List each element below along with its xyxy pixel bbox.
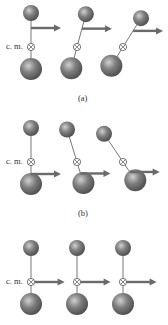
cm-label-b: c. m. — [6, 156, 23, 166]
large-sphere-c-2 — [66, 293, 88, 315]
force-arrowhead-b-2 — [104, 170, 111, 177]
small-sphere-a-1 — [23, 5, 39, 21]
small-sphere-a-2 — [78, 6, 94, 22]
figure-canvas: c. m. c. m. c. m. (a) (b) — [0, 0, 168, 325]
small-sphere-c-2 — [69, 240, 85, 256]
small-sphere-c-3 — [115, 240, 131, 256]
force-arrowhead-a-3 — [156, 27, 163, 34]
large-sphere-a-3 — [100, 55, 122, 77]
large-sphere-b-2 — [72, 172, 94, 194]
large-sphere-c-1 — [20, 293, 42, 315]
force-arrowhead-b-3 — [153, 168, 160, 175]
large-sphere-a-2 — [60, 57, 82, 79]
force-arrowhead-c-2 — [104, 279, 111, 286]
small-sphere-c-1 — [23, 240, 39, 256]
large-sphere-b-1 — [20, 173, 42, 195]
cm-label-c: c. m. — [6, 276, 23, 286]
force-arrowhead-c-1 — [58, 279, 65, 286]
small-sphere-a-3 — [133, 10, 149, 26]
small-sphere-b-1 — [23, 120, 39, 136]
force-arrowhead-b-1 — [54, 171, 61, 178]
force-arrowhead-a-1 — [54, 25, 61, 32]
large-sphere-a-1 — [20, 58, 42, 80]
small-sphere-b-3 — [96, 126, 112, 142]
panel-label-b: (b) — [78, 208, 88, 218]
small-sphere-b-2 — [59, 121, 75, 137]
panel-label-a: (a) — [78, 93, 88, 103]
force-arrowhead-a-2 — [105, 25, 112, 32]
force-arrowhead-c-3 — [150, 279, 157, 286]
large-sphere-c-3 — [112, 293, 134, 315]
drawing-layer — [20, 5, 163, 315]
cm-label-a: c. m. — [6, 41, 23, 51]
